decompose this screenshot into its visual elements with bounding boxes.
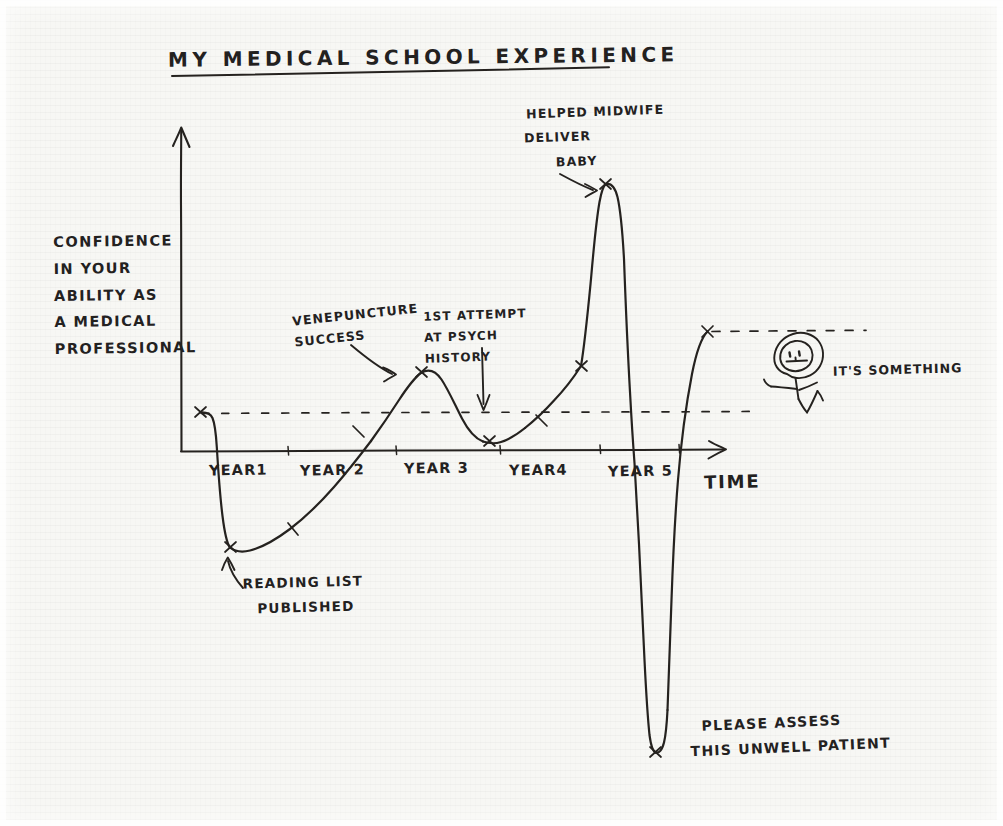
annotation-line: PUBLISHED xyxy=(257,593,364,621)
page-title: MY MEDICAL SCHOOL EXPERIENCE xyxy=(168,41,679,73)
annotation-arrow-reading-list xyxy=(222,558,243,589)
stick-figure xyxy=(764,333,823,413)
annotation-please-assess-unwell-patient: PLEASE ASSESSTHIS UNWELL PATIENT xyxy=(689,706,892,765)
x-axis-tick-label-year2: YEAR 2 xyxy=(300,460,365,481)
annotation-helped-midwife-deliver-baby: HELPED MIDWIFEDELIVERBABY xyxy=(526,98,667,176)
baseline-dashed-reference-line xyxy=(202,411,756,413)
x-axis-tick-label-year1: YEAR1 xyxy=(209,460,268,481)
annotation-arrow-venepuncture xyxy=(351,345,396,382)
hand-drawn-chart-svg xyxy=(0,0,1003,826)
annotation-arrow-midwife xyxy=(560,174,597,197)
sketch-canvas: MY MEDICAL SCHOOL EXPERIENCE CONFIDENCE … xyxy=(0,0,1003,826)
annotation-stick-figure-caption: IT'S SOMETHING xyxy=(833,360,963,380)
annotation-line: SUCCESS xyxy=(294,327,367,349)
x-axis-tick-label-year5: YEAR 5 xyxy=(608,461,673,482)
annotation-line: THIS UNWELL PATIENT xyxy=(690,735,891,760)
annotation-first-psych-history: 1ST ATTEMPT AT PSYCH HISTORY xyxy=(423,303,528,370)
annotation-line: BABY xyxy=(555,146,666,174)
x-axis xyxy=(181,441,726,459)
y-axis-label: CONFIDENCE IN YOUR ABILITY AS A MEDICAL … xyxy=(53,227,197,363)
x-axis-label: TIME xyxy=(704,469,761,495)
annotation-line: 1ST ATTEMPT xyxy=(423,306,527,324)
final-level-dashed-line xyxy=(712,330,866,331)
annotation-line: HISTORY xyxy=(425,349,492,365)
annotation-line: AT PSYCH xyxy=(424,328,498,345)
annotation-line: READING LIST xyxy=(242,572,363,591)
x-axis-tick-label-year3: YEAR 3 xyxy=(404,459,469,479)
annotation-line: HELPED MIDWIFE xyxy=(526,102,665,122)
x-axis-tick-label-year4: YEAR4 xyxy=(509,461,568,481)
annotation-reading-list-published: READING LISTPUBLISHED xyxy=(242,568,364,621)
